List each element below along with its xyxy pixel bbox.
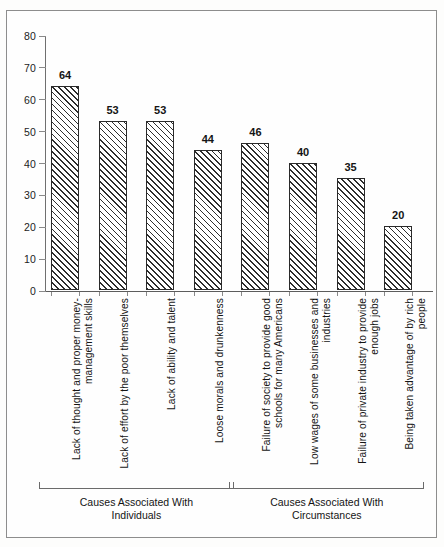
y-axis-tick-label-text: 40	[2, 159, 36, 169]
y-axis-tick-label-text: 50	[2, 127, 36, 137]
y-axis-tick-label: 80	[0, 31, 36, 41]
y-axis-tick-label: 70	[0, 63, 36, 73]
x-axis-tick	[174, 292, 175, 296]
y-axis-tick	[39, 99, 46, 100]
bar[interactable]	[384, 226, 412, 290]
category-label: Being taken advantage of by rich people	[404, 298, 427, 474]
x-axis-tick	[127, 292, 128, 296]
bar-value-label: 53	[93, 105, 133, 116]
y-axis-tick-label: 20	[0, 222, 36, 232]
y-axis-tick	[39, 195, 46, 196]
bar-value-label: 20	[378, 210, 418, 221]
y-axis-tick	[39, 259, 46, 260]
bar[interactable]	[241, 143, 269, 290]
y-axis-tick-label-text: 30	[2, 190, 36, 200]
bar-value-label: 40	[283, 147, 323, 158]
y-axis-tick-label: 40	[0, 159, 36, 169]
y-axis-tick-label: 0	[0, 286, 36, 296]
y-axis-tick-label: 60	[0, 95, 36, 105]
bar-value-label: 44	[188, 134, 228, 145]
y-axis-tick	[39, 67, 46, 68]
group-bracket	[39, 482, 234, 489]
bar-value-label: 35	[331, 162, 371, 173]
bar[interactable]	[337, 178, 365, 290]
y-axis-tick-label: 10	[0, 254, 36, 264]
x-axis-tick	[412, 292, 413, 296]
y-axis-tick-label-text: 60	[2, 95, 36, 105]
bar[interactable]	[99, 121, 127, 290]
x-axis-tick	[289, 292, 290, 296]
x-axis-tick	[51, 292, 52, 296]
group-bracket	[229, 482, 424, 489]
y-axis-tick	[39, 36, 46, 37]
category-label: Loose morals and drunkenness	[214, 298, 226, 474]
group-caption: Causes Associated With Individuals	[39, 496, 234, 521]
bar-chart-figure: 80706050403020100 6453534446403520 Lack …	[0, 0, 444, 547]
y-axis-tick-label-text: 80	[2, 31, 36, 41]
bar[interactable]	[51, 86, 79, 290]
bar-value-label: 46	[235, 127, 275, 138]
bar[interactable]	[289, 163, 317, 291]
bar[interactable]	[194, 150, 222, 290]
category-label: Failure of private industry to provide e…	[357, 298, 380, 474]
category-label: Lack of effort by the poor themselves	[119, 298, 131, 474]
x-axis-tick	[269, 292, 270, 296]
y-axis-tick	[39, 163, 46, 164]
y-axis-tick	[39, 131, 46, 132]
group-caption: Causes Associated With Circumstances	[229, 496, 424, 521]
y-axis-tick-label-text: 20	[2, 222, 36, 232]
bar-value-label: 64	[45, 70, 85, 81]
x-axis-tick	[79, 292, 80, 296]
x-axis-tick	[222, 292, 223, 296]
x-axis-tick	[241, 292, 242, 296]
x-axis-tick	[146, 292, 147, 296]
x-axis-tick	[365, 292, 366, 296]
y-axis-tick-label-text: 0	[2, 286, 36, 296]
plot-area	[46, 36, 432, 290]
y-axis-tick	[39, 227, 46, 228]
y-axis-tick	[39, 291, 46, 292]
y-axis-tick-label-text: 70	[2, 63, 36, 73]
category-label: Failure of society to provide good schoo…	[261, 298, 284, 474]
y-axis-tick-label: 50	[0, 127, 36, 137]
bar[interactable]	[146, 121, 174, 290]
category-label: Low wages of some businesses and industr…	[309, 298, 332, 474]
x-axis-tick	[194, 292, 195, 296]
y-axis-tick-label-text: 10	[2, 254, 36, 264]
x-axis-tick	[384, 292, 385, 296]
x-axis-tick	[317, 292, 318, 296]
bar-value-label: 53	[140, 105, 180, 116]
y-axis-tick-label: 30	[0, 190, 36, 200]
x-axis-tick	[337, 292, 338, 296]
category-label: Lack of ability and talent	[166, 298, 178, 474]
x-axis-line	[45, 291, 433, 292]
x-axis-tick	[99, 292, 100, 296]
category-label: Lack of thought and proper money- manage…	[71, 298, 94, 474]
